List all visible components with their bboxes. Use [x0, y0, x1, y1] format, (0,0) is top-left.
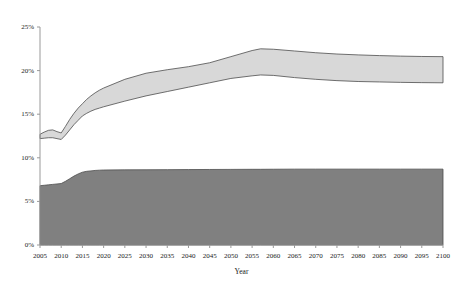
- lower-shaded-band: [40, 169, 443, 245]
- x-axis-tick-label: 2080: [351, 253, 365, 260]
- upper-shaded-band: [40, 49, 443, 140]
- y-axis-tick-label: 0%: [0, 242, 34, 249]
- x-axis-tick-label: 2085: [372, 253, 386, 260]
- x-axis-tick-label: 2075: [330, 253, 344, 260]
- y-axis: [37, 27, 40, 245]
- x-axis-tick-label: 2060: [266, 253, 280, 260]
- x-axis-tick-label: 2020: [97, 253, 111, 260]
- x-axis-tick-label: 2095: [415, 253, 429, 260]
- x-axis-tick-label: 2005: [33, 253, 47, 260]
- y-axis-tick-label: 10%: [0, 154, 34, 161]
- chart-container: 0%5%10%15%20%25% 20052010201520202025203…: [0, 0, 464, 287]
- x-axis-tick-label: 2040: [181, 253, 195, 260]
- y-axis-tick-label: 5%: [0, 198, 34, 205]
- y-axis-tick-label: 25%: [0, 24, 34, 31]
- x-axis-tick-label: 2070: [309, 253, 323, 260]
- x-axis-tick-label: 2045: [203, 253, 217, 260]
- x-axis-tick-label: 2050: [224, 253, 238, 260]
- lower-shaded-band-group: [40, 169, 443, 245]
- x-axis: [40, 245, 443, 248]
- x-axis-tick-label: 2065: [288, 253, 302, 260]
- x-axis-tick-label: 2035: [160, 253, 174, 260]
- x-axis-tick-label: 2015: [75, 253, 89, 260]
- y-axis-tick-label: 20%: [0, 67, 34, 74]
- x-axis-tick-label: 2025: [118, 253, 132, 260]
- y-axis-tick-label: 15%: [0, 111, 34, 118]
- x-axis-tick-label: 2055: [245, 253, 259, 260]
- x-axis-tick-label: 2090: [394, 253, 408, 260]
- upper-shaded-band-group: [40, 49, 443, 140]
- x-axis-title: Year: [235, 267, 249, 276]
- chart-plot-area: [0, 0, 464, 287]
- x-axis-tick-label: 2100: [436, 253, 450, 260]
- x-axis-tick-label: 2010: [54, 253, 68, 260]
- x-axis-tick-label: 2030: [139, 253, 153, 260]
